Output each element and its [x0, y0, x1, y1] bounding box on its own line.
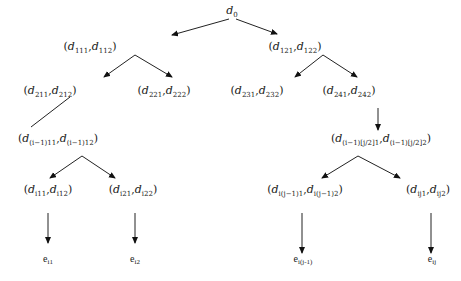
arrow-edge [50, 156, 82, 178]
close-paren: ) [72, 84, 76, 97]
variable: d [135, 183, 142, 196]
tree-node-ni11: (di11,di12) [24, 183, 73, 201]
tree-node-n241: (d241,d242) [323, 84, 376, 102]
subscript: 241 [334, 91, 347, 99]
tree-node-ni21: (di21,di22) [109, 183, 158, 201]
subscript: ij2 [437, 190, 446, 198]
close-paren: ) [371, 84, 375, 97]
leaf-subscript: i2 [135, 258, 140, 266]
close-paren: ) [112, 40, 116, 53]
arrow-edge [135, 55, 172, 77]
tree-node-n221: (d221,d222) [138, 84, 191, 102]
tree-node-nij1: (dij1,dij2) [406, 183, 450, 201]
tree-node-n121: (d121,d122) [269, 40, 322, 58]
arrow-edge [104, 55, 135, 77]
tree-node-n231: (d231,d232) [231, 84, 284, 102]
subscript: 222 [173, 91, 186, 99]
arrow-edge [236, 19, 277, 34]
subscript: i(j−1)1 [279, 190, 304, 198]
arrow-edge [323, 55, 357, 77]
arrow-edge [322, 156, 358, 178]
close-paren: ) [317, 40, 321, 53]
subscript: 231 [242, 91, 255, 99]
subscript: 232 [266, 91, 279, 99]
subscript: i(j−1)2 [314, 190, 339, 198]
close-paren: ) [427, 132, 431, 145]
tree-node-n211: (d211,d212) [24, 84, 77, 102]
variable: d [60, 132, 67, 145]
close-paren: ) [153, 183, 157, 196]
subscript: 122 [304, 47, 317, 55]
variable: d [430, 183, 437, 196]
subscript: 211 [35, 91, 48, 99]
tree-node-nij11: (di(j−1)1,di(j−1)2) [267, 183, 343, 201]
variable: d [383, 132, 390, 145]
leaf-node-ei2: ei2 [130, 253, 140, 266]
subscript: (i−1)[j/2]1 [342, 139, 379, 147]
subscript: i12 [57, 190, 68, 198]
subscript: i11 [35, 190, 46, 198]
close-paren: ) [94, 132, 98, 145]
leaf-node-eij: eij [428, 253, 436, 266]
leaf-subscript: i(j-1) [298, 258, 312, 266]
close-paren: ) [338, 183, 342, 196]
close-paren: ) [186, 84, 190, 97]
tree-node-ni111: (d(i−1)11,d(i−1)12) [18, 132, 98, 150]
close-paren: ) [446, 183, 450, 196]
leaf-subscript: i1 [48, 258, 53, 266]
subscript: i22 [142, 190, 153, 198]
subscript: (i−1)12 [67, 139, 94, 147]
subscript: 111 [75, 47, 88, 55]
subscript: 221 [149, 91, 162, 99]
subscript: 0 [233, 11, 237, 19]
arrow-edge [82, 156, 115, 178]
variable: d [226, 4, 233, 17]
subscript: ij1 [417, 190, 426, 198]
tree-node-root: d0 [226, 4, 238, 22]
variable: d [307, 183, 314, 196]
leaf-node-eij1: ei(j-1) [294, 253, 313, 266]
arrow-edge [358, 156, 400, 178]
variable: d [50, 183, 57, 196]
subscript: i21 [120, 190, 131, 198]
tree-node-n111: (d111,d112) [64, 40, 117, 58]
arrow-edge [172, 19, 229, 35]
subscript: 121 [280, 47, 293, 55]
arrow-edge [295, 55, 323, 77]
tree-diagram: d0(d111,d112)(d121,d122)(d211,d212)(d221… [0, 0, 461, 281]
tree-node-nij21: (d(i−1)[j/2]1,d(i−1)[j/2]2) [331, 132, 431, 150]
subscript: (i−1)11 [29, 139, 56, 147]
subscript: 112 [99, 47, 112, 55]
subscript: 212 [59, 91, 72, 99]
leaf-subscript: ij [432, 258, 436, 266]
leaf-node-ei1: ei1 [43, 253, 53, 266]
subscript: 242 [358, 91, 371, 99]
close-paren: ) [279, 84, 283, 97]
close-paren: ) [68, 183, 72, 196]
subscript: (i−1)[j/2]2 [390, 139, 427, 147]
